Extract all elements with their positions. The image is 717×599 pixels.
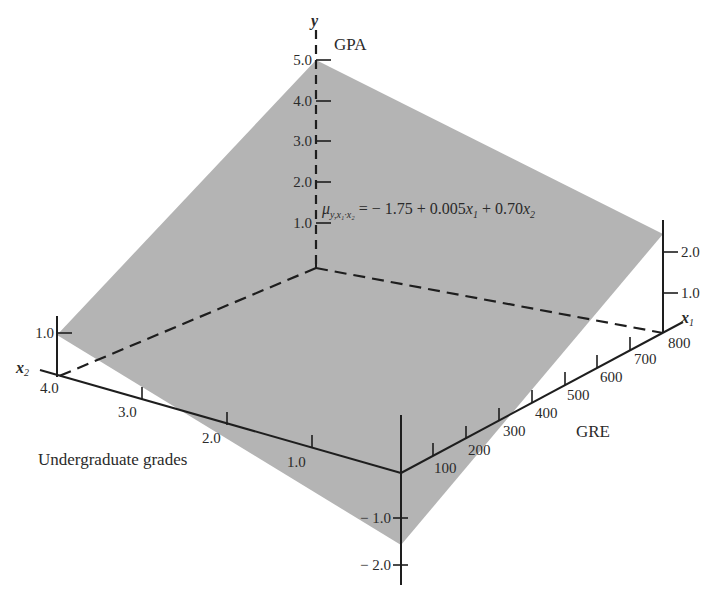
- right-corner-tick-label: 1.0: [681, 285, 700, 301]
- eq-x2-subscript: 2: [530, 209, 535, 220]
- y-tick-label: 3.0: [293, 133, 312, 149]
- x1-tick-label: 500: [567, 387, 590, 403]
- left-corner-tick-label: 1.0: [35, 325, 54, 341]
- x2-tick-label: 1.0: [287, 454, 306, 470]
- y-tick-label: 2.0: [293, 174, 312, 190]
- eq-x1: x: [465, 200, 473, 217]
- eq-mu-subscript: y,x₁·x₂: [329, 209, 355, 220]
- regression-plane-figure: y GPA 5.0 4.0 3.0 2.0 1.0 μy,x₁·x₂ = − 1…: [0, 0, 717, 599]
- eq-rhs-part2: + 0.70: [478, 200, 523, 217]
- eq-x2: x: [522, 200, 530, 217]
- x2-axis-title: Undergraduate grades: [38, 450, 187, 469]
- x1-tick-label: 700: [634, 351, 657, 367]
- y-tick-label: 5.0: [293, 52, 312, 68]
- x2-tick-label: 3.0: [118, 404, 137, 420]
- x2-tick-label: 2.0: [202, 430, 221, 446]
- x1-axis-title: GRE: [576, 422, 610, 441]
- x1-symbol-letter: x: [680, 309, 689, 326]
- eq-rhs-part1: = − 1.75 + 0.005: [355, 200, 466, 217]
- x1-tick-label: 300: [503, 423, 526, 439]
- y-tick-label: 1.0: [293, 215, 312, 231]
- y-axis-title: GPA: [334, 35, 367, 54]
- x2-axis-symbol: x2: [15, 359, 29, 378]
- x2-symbol-letter: x: [15, 359, 24, 376]
- x1-tick-label: 100: [434, 460, 457, 476]
- y-axis-symbol: y: [309, 12, 319, 30]
- y-tick-label: 4.0: [293, 93, 312, 109]
- x1-tick-label: 400: [535, 405, 558, 421]
- front-tick-label: − 2.0: [360, 557, 391, 573]
- x1-tick-label: 600: [600, 369, 623, 385]
- eq-mu: μ: [321, 200, 330, 218]
- x1-tick-label: 800: [668, 335, 691, 351]
- front-tick-label: − 1.0: [360, 510, 391, 526]
- x1-axis-symbol: x1: [680, 309, 694, 328]
- x1-tick-label: 200: [468, 442, 491, 458]
- right-corner-tick-label: 2.0: [681, 244, 700, 260]
- x2-tick-label: 4.0: [40, 380, 59, 396]
- x1-symbol-subscript: 1: [689, 317, 694, 328]
- regression-plane: [57, 60, 663, 545]
- x2-symbol-subscript: 2: [24, 367, 29, 378]
